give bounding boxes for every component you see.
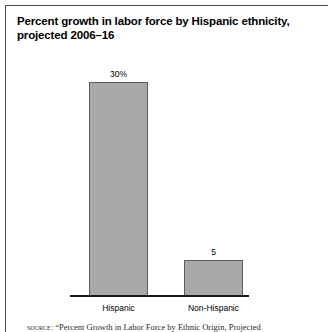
x-axis-line bbox=[70, 295, 249, 297]
bar-hispanic bbox=[89, 82, 148, 296]
source-note-label: source: bbox=[27, 322, 53, 332]
x-axis-label-hispanic: Hispanic bbox=[74, 303, 163, 313]
x-axis-label-non-hispanic: Non-Hispanic bbox=[169, 303, 258, 313]
source-note: source: “Percent Growth in Labor Force b… bbox=[27, 322, 322, 332]
source-note-text: “Percent Growth in Labor Force by Ethnic… bbox=[55, 322, 261, 332]
figure-container: Percent growth in labor force by Hispani… bbox=[0, 0, 328, 332]
plot-area: 30% 5 Hispanic Non-Hispanic bbox=[0, 0, 328, 332]
bar-value-hispanic: 30% bbox=[89, 69, 148, 79]
bar-non-hispanic bbox=[184, 260, 243, 296]
bar-value-non-hispanic: 5 bbox=[184, 247, 243, 257]
